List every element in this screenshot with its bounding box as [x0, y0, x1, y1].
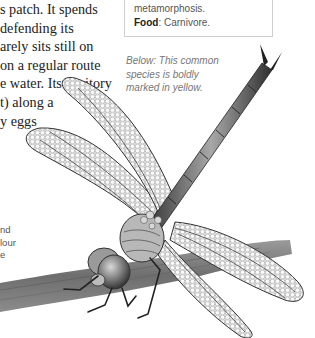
dragonfly-illustration: [0, 0, 315, 338]
